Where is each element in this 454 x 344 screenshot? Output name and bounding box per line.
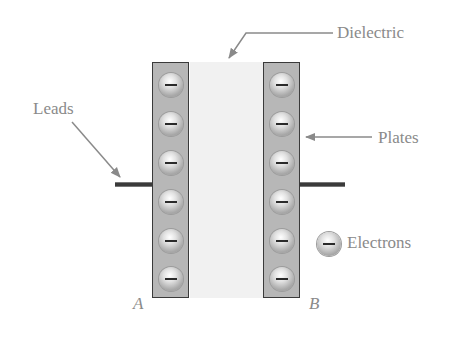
plate-b-label: B [309, 295, 319, 312]
electron-icon [270, 267, 294, 291]
electron-icon [270, 151, 294, 175]
legend-electron-icon [317, 232, 341, 256]
electron-icon [270, 73, 294, 97]
dielectric [190, 62, 263, 298]
leads-arrow [72, 122, 120, 177]
electron-icon [270, 112, 294, 136]
leads-label: Leads [33, 100, 74, 117]
electron-icon [159, 112, 183, 136]
dielectric-arrow [229, 33, 333, 58]
plate-a [152, 62, 189, 298]
electron-icon [159, 190, 183, 214]
lead-left [115, 182, 153, 187]
electron-icon [159, 151, 183, 175]
electron-icon [159, 73, 183, 97]
plate-b [263, 62, 300, 298]
electron-icon [159, 267, 183, 291]
plate-a-label: A [133, 295, 143, 312]
electron-icon [159, 229, 183, 253]
lead-right [300, 182, 345, 187]
electron-icon [270, 229, 294, 253]
plates-label: Plates [378, 129, 419, 146]
electrons-label: Electrons [347, 234, 411, 251]
electron-icon [270, 190, 294, 214]
dielectric-label: Dielectric [337, 24, 404, 41]
